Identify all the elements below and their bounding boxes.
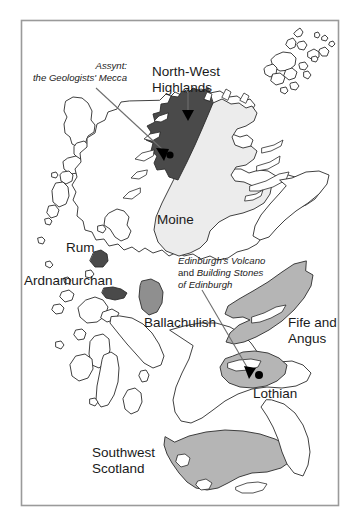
island-south-uist — [52, 182, 69, 207]
label-ballachulish: Ballachulish — [144, 315, 216, 330]
label-lothian: Lothian — [253, 386, 297, 401]
label-sw-line2: Scotland — [92, 461, 145, 476]
label-fife-line1: Fife and — [288, 315, 337, 330]
assynt-dot-icon — [166, 151, 173, 158]
label-assynt-line1: Assynt: — [95, 60, 128, 71]
label-nwh-line1: North-West — [152, 64, 220, 79]
label-edinburgh-line2b: Building Stones — [197, 267, 264, 278]
label-north-west-highlands: North-West Highlands — [152, 64, 220, 95]
label-fife-line2: Angus — [288, 331, 327, 346]
label-ardnamurchan: Ardnamurchan — [24, 273, 113, 288]
label-assynt-line2: the Geologists' Mecca — [33, 72, 127, 83]
label-edinburgh-line2a: and — [178, 267, 197, 278]
geological-regions-map: Assynt: the Geologists' Mecca North-West… — [0, 0, 358, 526]
label-rum: Rum — [66, 240, 95, 255]
island-orkney-small-g — [312, 56, 318, 62]
island-orkney-hoy — [271, 73, 285, 85]
label-edinburgh-line2: and Building Stones — [178, 267, 264, 278]
label-edinburgh-line3: of Edinburgh — [178, 279, 232, 290]
island-small-hebrides-b — [52, 172, 58, 178]
label-nwh-line2: Highlands — [152, 80, 212, 95]
label-edinburgh-line1: Edinburgh's Volcano — [178, 255, 266, 266]
edinburgh-dot-icon — [255, 371, 263, 379]
label-moine: Moine — [157, 212, 194, 227]
label-sw-line1: Southwest — [92, 445, 155, 460]
